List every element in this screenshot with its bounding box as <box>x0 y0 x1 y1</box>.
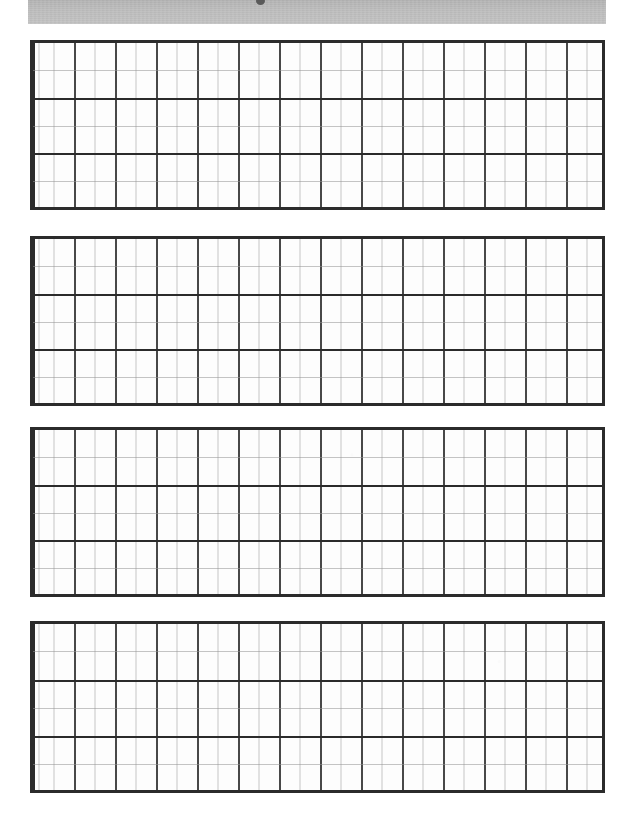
grid-block-1-rows <box>33 43 602 207</box>
grid-block-2[interactable] <box>30 236 605 406</box>
grid-row-major <box>33 294 602 296</box>
grid-row-minor <box>33 457 602 458</box>
header-band <box>28 0 606 24</box>
grid-block-3[interactable] <box>30 427 605 597</box>
header-band-label <box>28 0 606 24</box>
grid-block-3-rows <box>33 430 602 594</box>
grid-block-4-rows <box>33 624 602 790</box>
grid-row-major <box>33 98 602 100</box>
grid-row-minor <box>33 708 602 709</box>
grid-row-minor <box>33 764 602 765</box>
grid-row-major <box>33 680 602 682</box>
grid-row-minor <box>33 513 602 514</box>
grid-block-4[interactable] <box>30 621 605 793</box>
grid-row-minor <box>33 377 602 378</box>
scanned-page <box>0 0 640 827</box>
grid-row-minor <box>33 181 602 182</box>
grid-row-minor <box>33 70 602 71</box>
grid-row-minor <box>33 322 602 323</box>
grid-row-major <box>33 153 602 155</box>
grid-row-major <box>33 349 602 351</box>
grid-block-2-rows <box>33 239 602 403</box>
grid-row-major <box>33 540 602 542</box>
grid-row-minor <box>33 126 602 127</box>
grid-row-minor <box>33 266 602 267</box>
grid-row-minor <box>33 651 602 652</box>
grid-row-major <box>33 485 602 487</box>
grid-row-major <box>33 736 602 738</box>
grid-block-1[interactable] <box>30 40 605 210</box>
grid-row-minor <box>33 568 602 569</box>
